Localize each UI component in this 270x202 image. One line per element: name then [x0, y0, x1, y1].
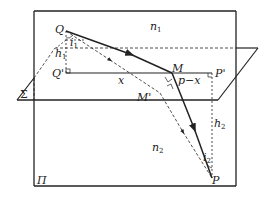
refraction-diagram: [0, 0, 270, 202]
right-angle-marks: [165, 77, 173, 89]
height-lines: [56, 31, 212, 178]
segment-x-label: x: [118, 75, 124, 86]
angle-i2-label: i2: [203, 152, 211, 165]
plane-sigma-label: Σ: [20, 89, 28, 100]
medium-n2-label: n2: [152, 142, 164, 155]
refracted-ray: [66, 31, 212, 178]
point-q-prime-label: Q': [52, 68, 64, 79]
height-h1-label: h1: [55, 48, 67, 61]
height-h2-label: h2: [214, 118, 226, 131]
point-q-label: Q: [55, 24, 64, 35]
alternate-path: [66, 31, 212, 178]
point-p-label: P: [212, 175, 219, 186]
medium-n1-label: n1: [150, 21, 162, 34]
angle-i1-label: i1: [70, 37, 78, 50]
point-m-prime-label: M': [137, 92, 151, 103]
point-p-prime-label: P': [215, 68, 225, 79]
point-m-label: M: [172, 63, 183, 74]
plane-pi-label: Π: [37, 175, 47, 186]
segment-p-minus-x-label: p−x: [178, 75, 200, 86]
